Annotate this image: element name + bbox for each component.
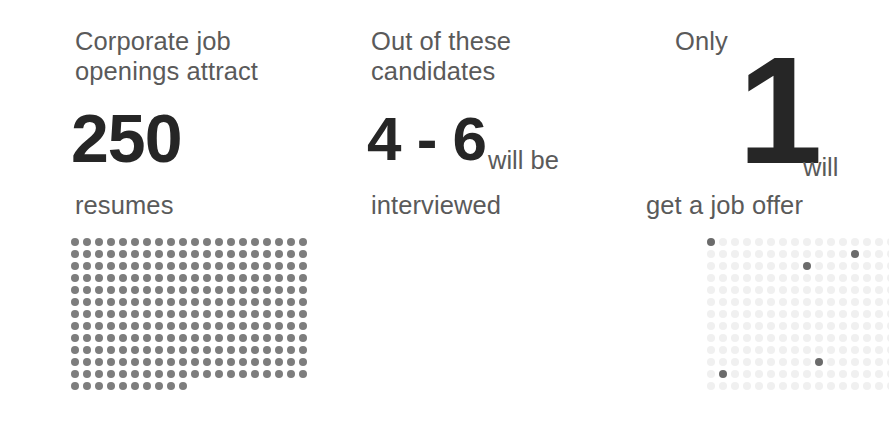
pictogram-dot bbox=[203, 274, 211, 282]
pictogram-dot bbox=[107, 262, 115, 270]
pictogram-dot bbox=[275, 358, 283, 366]
pictogram-dot bbox=[227, 310, 235, 318]
pictogram-dot bbox=[143, 310, 151, 318]
pictogram-dot bbox=[179, 346, 187, 354]
pictogram-dot bbox=[203, 310, 211, 318]
pictogram-dot bbox=[143, 262, 151, 270]
pictogram-dot bbox=[95, 382, 103, 390]
dot-grid-resumes bbox=[71, 238, 311, 394]
pictogram-dot bbox=[155, 310, 163, 318]
pictogram-dot bbox=[251, 238, 259, 246]
dot-grid-row bbox=[71, 346, 311, 358]
pictogram-dot bbox=[227, 382, 235, 390]
pictogram-dot bbox=[179, 250, 187, 258]
pictogram-dot bbox=[119, 370, 127, 378]
dot-grid-row bbox=[71, 322, 311, 334]
pictogram-dot bbox=[95, 322, 103, 330]
pictogram-dot bbox=[215, 370, 223, 378]
pictogram-dot bbox=[71, 274, 79, 282]
pictogram-dot bbox=[167, 286, 175, 294]
pictogram-dot bbox=[203, 262, 211, 270]
pictogram-dot bbox=[179, 274, 187, 282]
pictogram-dot bbox=[119, 286, 127, 294]
pictogram-dot bbox=[239, 370, 247, 378]
pictogram-dot bbox=[227, 286, 235, 294]
pictogram-dot bbox=[119, 274, 127, 282]
pictogram-dot bbox=[107, 310, 115, 318]
pictogram-dot bbox=[251, 382, 259, 390]
pictogram-dot bbox=[107, 370, 115, 378]
pictogram-dot bbox=[155, 238, 163, 246]
dot-grid-row bbox=[71, 358, 311, 370]
pictogram-dot bbox=[131, 238, 139, 246]
pictogram-dot bbox=[119, 382, 127, 390]
pictogram-dot bbox=[155, 286, 163, 294]
dot-grid-row bbox=[71, 238, 311, 250]
panel-interviewed-caption-line2: candidates bbox=[371, 56, 495, 86]
pictogram-dot bbox=[95, 358, 103, 366]
pictogram-dot bbox=[131, 346, 139, 354]
pictogram-dot bbox=[119, 322, 127, 330]
pictogram-dot bbox=[167, 370, 175, 378]
pictogram-dot bbox=[203, 298, 211, 306]
pictogram-dot bbox=[179, 310, 187, 318]
pictogram-dot bbox=[119, 346, 127, 354]
pictogram-dot bbox=[83, 262, 91, 270]
pictogram-dot bbox=[107, 346, 115, 354]
pictogram-dot bbox=[83, 370, 91, 378]
pictogram-dot bbox=[131, 358, 139, 366]
pictogram-dot bbox=[107, 334, 115, 342]
pictogram-dot bbox=[83, 298, 91, 306]
pictogram-dot bbox=[71, 346, 79, 354]
pictogram-dot bbox=[179, 322, 187, 330]
pictogram-dot bbox=[263, 310, 271, 318]
pictogram-dot bbox=[83, 310, 91, 318]
pictogram-dot bbox=[239, 358, 247, 366]
pictogram-dot bbox=[167, 334, 175, 342]
pictogram-dot bbox=[95, 346, 103, 354]
pictogram-dot bbox=[191, 298, 199, 306]
pictogram-dot bbox=[71, 262, 79, 270]
pictogram-dot bbox=[191, 334, 199, 342]
pictogram-dot bbox=[275, 250, 283, 258]
pictogram-dot bbox=[179, 334, 187, 342]
pictogram-dot bbox=[143, 250, 151, 258]
pictogram-dot bbox=[239, 310, 247, 318]
pictogram-dot bbox=[275, 310, 283, 318]
pictogram-dot bbox=[263, 382, 271, 390]
pictogram-dot bbox=[215, 382, 223, 390]
pictogram-dot bbox=[287, 262, 295, 270]
pictogram-dot bbox=[287, 298, 295, 306]
pictogram-dot bbox=[263, 370, 271, 378]
panel-job-offer-will: will bbox=[803, 152, 838, 182]
pictogram-dot bbox=[263, 334, 271, 342]
pictogram-dot bbox=[299, 286, 307, 294]
pictogram-dot bbox=[203, 238, 211, 246]
pictogram-dot bbox=[71, 286, 79, 294]
pictogram-dot bbox=[287, 250, 295, 258]
pictogram-dot bbox=[119, 334, 127, 342]
pictogram-dot bbox=[167, 358, 175, 366]
pictogram-dot bbox=[239, 346, 247, 354]
pictogram-dot bbox=[191, 322, 199, 330]
pictogram-dot bbox=[263, 250, 271, 258]
dot-grid-row bbox=[71, 274, 311, 286]
pictogram-dot bbox=[143, 382, 151, 390]
pictogram-dot bbox=[107, 286, 115, 294]
pictogram-dot bbox=[227, 238, 235, 246]
pictogram-dot bbox=[275, 238, 283, 246]
panel-interviewed-will: will be bbox=[488, 145, 559, 175]
pictogram-dot bbox=[167, 310, 175, 318]
pictogram-dot bbox=[143, 298, 151, 306]
pictogram-dot bbox=[167, 382, 175, 390]
pictogram-dot bbox=[167, 322, 175, 330]
pictogram-dot bbox=[251, 262, 259, 270]
pictogram-dot bbox=[215, 298, 223, 306]
pictogram-dot bbox=[287, 382, 295, 390]
dot-grid-row bbox=[71, 262, 311, 274]
pictogram-dot bbox=[215, 262, 223, 270]
pictogram-dot bbox=[83, 358, 91, 366]
pictogram-dot bbox=[119, 262, 127, 270]
pictogram-dot bbox=[227, 358, 235, 366]
pictogram-dot bbox=[179, 238, 187, 246]
